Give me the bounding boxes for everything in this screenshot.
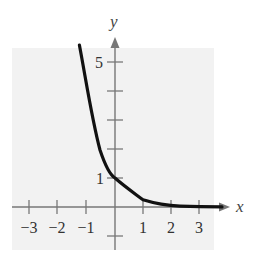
- y-axis-label: y: [108, 12, 118, 31]
- x-tick-label: 1: [139, 219, 147, 236]
- y-tick-label: 1: [96, 170, 104, 187]
- x-tick-label: 2: [167, 219, 175, 236]
- y-axis-arrow-icon: [111, 37, 120, 48]
- chart-figure: −3 −2 −1 1 2 3 5 1 x y: [0, 0, 259, 255]
- x-tick-label: −1: [77, 219, 94, 236]
- x-tick-label: 3: [195, 219, 203, 236]
- chart-svg: −3 −2 −1 1 2 3 5 1 x y: [0, 0, 259, 255]
- x-tick-label: −3: [20, 219, 37, 236]
- x-tick-label: −2: [48, 219, 65, 236]
- y-tick-label: 5: [95, 54, 103, 71]
- x-axis-label: x: [235, 197, 244, 216]
